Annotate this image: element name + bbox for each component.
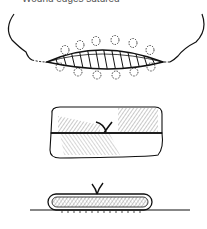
surface-dots [61, 211, 141, 213]
skin-outline-right [170, 14, 204, 62]
layered-tissue-panel [50, 107, 163, 158]
suture-knot-bottom [92, 183, 103, 194]
flattened-tissue-panel [30, 183, 190, 213]
wound-panel [8, 14, 204, 79]
suture-diagram [0, 0, 207, 229]
skin-outline-left [8, 14, 32, 60]
